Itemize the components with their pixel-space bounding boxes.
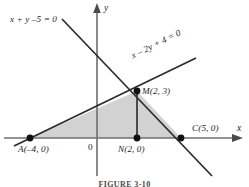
x-axis-label: x bbox=[237, 124, 241, 134]
figure-container: x + y –5 = 0 x – 2y + 4 = 0 y x 0 M(2, 3… bbox=[0, 0, 249, 187]
point-label-n: N(2, 0) bbox=[118, 145, 145, 154]
point-marker-a bbox=[27, 135, 34, 142]
origin-label: 0 bbox=[88, 143, 93, 152]
point-marker-n bbox=[134, 135, 141, 142]
point-label-a: A(–4, 0) bbox=[18, 145, 49, 154]
coordinate-plane-diagram bbox=[0, 0, 249, 187]
line-equation-label-1: x + y –5 = 0 bbox=[10, 15, 57, 24]
point-label-m: M(2, 3) bbox=[142, 87, 170, 96]
point-marker-m bbox=[134, 88, 141, 95]
point-label-c: C(5, 0) bbox=[192, 124, 219, 133]
y-axis-arrowhead bbox=[93, 3, 101, 13]
shaded-triangle-region bbox=[30, 91, 181, 138]
y-axis-label: y bbox=[104, 4, 108, 14]
figure-caption: FIGURE 3-10 bbox=[0, 180, 249, 187]
point-marker-c bbox=[178, 135, 185, 142]
x-axis-arrowhead bbox=[232, 134, 243, 142]
